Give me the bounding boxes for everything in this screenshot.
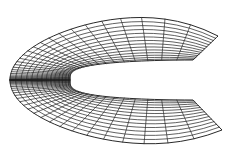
grid-line xyxy=(177,100,194,139)
grid-line xyxy=(162,19,165,60)
wake-cut-boundary xyxy=(193,36,218,60)
grid-line xyxy=(144,99,148,143)
grid-line xyxy=(120,19,135,62)
grid-line xyxy=(142,17,148,60)
grid-line xyxy=(66,57,195,102)
inner-body-boundary xyxy=(70,60,193,100)
grid-line xyxy=(162,100,168,143)
c-grid-mesh xyxy=(0,0,234,163)
mesh-diagram xyxy=(0,0,234,163)
grid-line xyxy=(63,55,197,105)
grid-line xyxy=(123,99,136,142)
grid-line xyxy=(71,29,106,63)
wake-cut-boundary xyxy=(193,100,222,130)
